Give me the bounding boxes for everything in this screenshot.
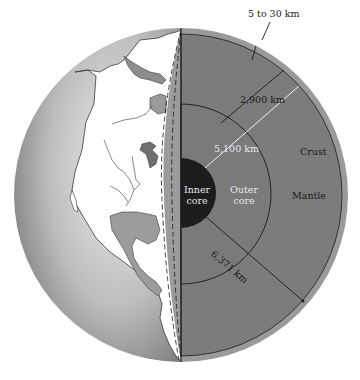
- crust-thickness-pointer: [262, 22, 270, 40]
- globe-surface-left: [14, 28, 181, 362]
- crust-thickness-label: 5 to 30 km: [248, 8, 300, 19]
- earth-cross-section-diagram: 5 to 30 km 2,900 km 5,100 km 6,371 km Cr…: [0, 0, 360, 380]
- crust-label: Crust: [300, 146, 327, 157]
- inner-core-label-line2: core: [182, 195, 212, 206]
- outer-core-label-line1: Outer: [226, 184, 262, 195]
- earth-radius-endpoint: [302, 300, 305, 303]
- mantle-thickness-label: 2,900 km: [240, 94, 285, 105]
- outer-core-label-line2: core: [226, 195, 262, 206]
- inner-core-label-line1: Inner: [182, 184, 212, 195]
- outer-core-label: Outer core: [226, 184, 262, 206]
- inner-core-label: Inner core: [182, 184, 212, 206]
- core-radius-label: 5,100 km: [214, 143, 259, 154]
- mantle-label: Mantle: [292, 190, 326, 201]
